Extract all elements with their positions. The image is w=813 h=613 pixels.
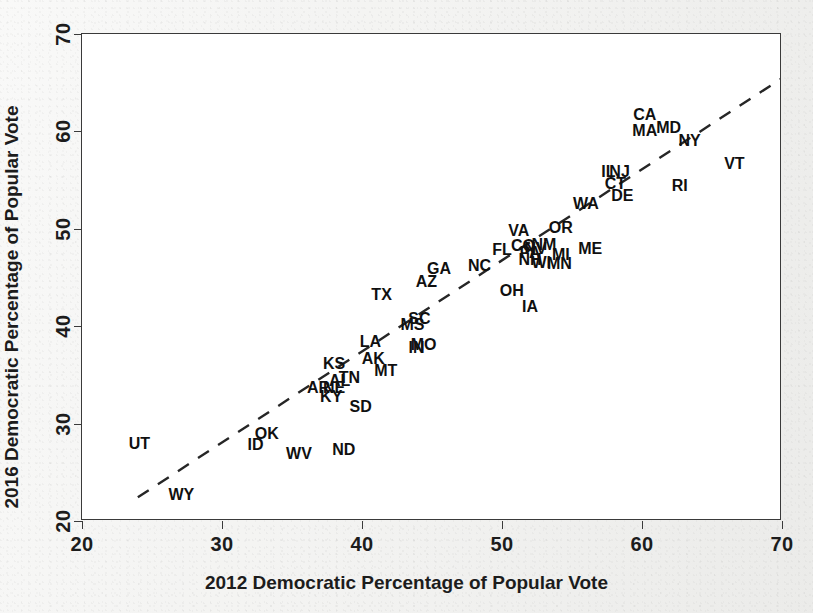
x-tick-label-50: 50 — [490, 533, 513, 556]
state-label-ut: UT — [129, 436, 150, 452]
y-tick-label-70: 70 — [52, 22, 75, 45]
y-tick-label-20: 20 — [52, 509, 75, 532]
state-label-md: MD — [656, 120, 681, 136]
state-label-tx: TX — [371, 287, 391, 303]
state-label-wa: WA — [573, 196, 599, 212]
x-tick-70 — [782, 521, 783, 529]
state-label-ok: OK — [255, 426, 279, 442]
x-axis-title: 2012 Democratic Percentage of Popular Vo… — [0, 572, 813, 594]
x-tick-label-60: 60 — [630, 533, 653, 556]
x-tick-30 — [222, 521, 223, 529]
chart-page: 2016 Democratic Percentage of Popular Vo… — [0, 0, 813, 613]
state-label-ma: MA — [632, 123, 657, 139]
plot-area: UTWYIDOKWVNDARNEKYSDKSALTNMTAKLAMOINMSSC… — [82, 34, 780, 519]
x-tick-40 — [362, 521, 363, 529]
state-label-nm: NM — [532, 237, 557, 253]
x-tick-label-40: 40 — [350, 533, 373, 556]
y-tick-50 — [74, 229, 82, 230]
y-tick-label-60: 60 — [52, 120, 75, 143]
y-tick-30 — [74, 424, 82, 425]
state-label-az: AZ — [416, 274, 437, 290]
state-label-sd: SD — [349, 399, 371, 415]
x-tick-label-30: 30 — [210, 533, 233, 556]
y-tick-40 — [74, 326, 82, 327]
state-label-la: LA — [360, 334, 381, 350]
x-tick-label-20: 20 — [70, 533, 93, 556]
y-tick-label-30: 30 — [52, 412, 75, 435]
state-label-wv: WV — [286, 446, 312, 462]
state-label-in: IN — [409, 340, 425, 356]
state-label-tn: TN — [339, 370, 360, 386]
state-label-ri: RI — [672, 178, 688, 194]
state-label-ky: KY — [320, 389, 342, 405]
y-tick-60 — [74, 131, 82, 132]
state-label-me: ME — [578, 241, 602, 257]
state-label-oh: OH — [500, 283, 524, 299]
state-label-nj: NJ — [609, 164, 629, 180]
plot-frame: 203040506070 203040506070 UTWYIDOKWVNDAR… — [81, 33, 781, 520]
state-label-ia: IA — [522, 299, 538, 315]
state-label-or: OR — [549, 220, 573, 236]
state-label-va: VA — [508, 223, 529, 239]
y-tick-label-40: 40 — [52, 315, 75, 338]
x-tick-20 — [82, 521, 83, 529]
state-label-sc: SC — [408, 311, 430, 327]
y-tick-label-50: 50 — [52, 217, 75, 240]
x-tick-50 — [502, 521, 503, 529]
y-tick-20 — [74, 521, 82, 522]
state-label-vt: VT — [724, 156, 744, 172]
state-label-wy: WY — [169, 487, 195, 503]
y-axis-title: 2016 Democratic Percentage of Popular Vo… — [1, 105, 23, 508]
x-tick-label-70: 70 — [770, 533, 793, 556]
state-label-fl: FL — [492, 242, 512, 258]
state-label-ga: GA — [427, 261, 451, 277]
state-label-ca: CA — [633, 107, 656, 123]
state-label-ny: NY — [678, 133, 700, 149]
state-label-nc: NC — [468, 258, 491, 274]
y-tick-70 — [74, 34, 82, 35]
state-label-ak: AK — [362, 351, 385, 367]
x-tick-60 — [642, 521, 643, 529]
state-label-nd: ND — [332, 442, 355, 458]
